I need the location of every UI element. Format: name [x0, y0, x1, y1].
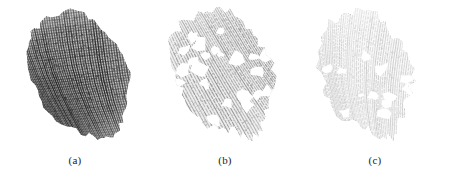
fingerprint-image-a — [0, 0, 150, 152]
figure-panel-b: (b) — [150, 0, 300, 180]
fingerprint-binarized-graphic — [150, 0, 300, 152]
figure-panel-c: (c) — [300, 0, 450, 180]
fingerprint-image-b — [150, 0, 300, 152]
fingerprint-original-graphic — [0, 0, 150, 152]
fingerprint-image-c — [300, 0, 450, 152]
panel-caption-b: (b) — [150, 154, 300, 167]
figure-panel-a: (a) — [0, 0, 150, 180]
panel-caption-c: (c) — [300, 154, 450, 167]
panel-caption-a: (a) — [0, 154, 150, 167]
figure-container: (a) (b) (c) — [0, 0, 450, 180]
fingerprint-thinned-graphic — [300, 0, 450, 152]
